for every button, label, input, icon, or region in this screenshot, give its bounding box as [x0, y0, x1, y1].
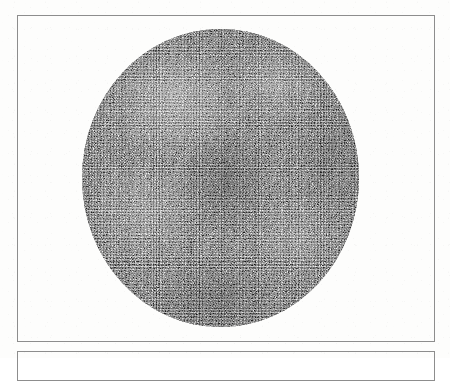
- texture-vignette-layer: [82, 29, 359, 327]
- circular-specimen: [82, 29, 359, 327]
- primary-plate-frame: [17, 15, 435, 342]
- specimen-disc: [82, 29, 359, 327]
- secondary-plate-frame: [17, 351, 435, 381]
